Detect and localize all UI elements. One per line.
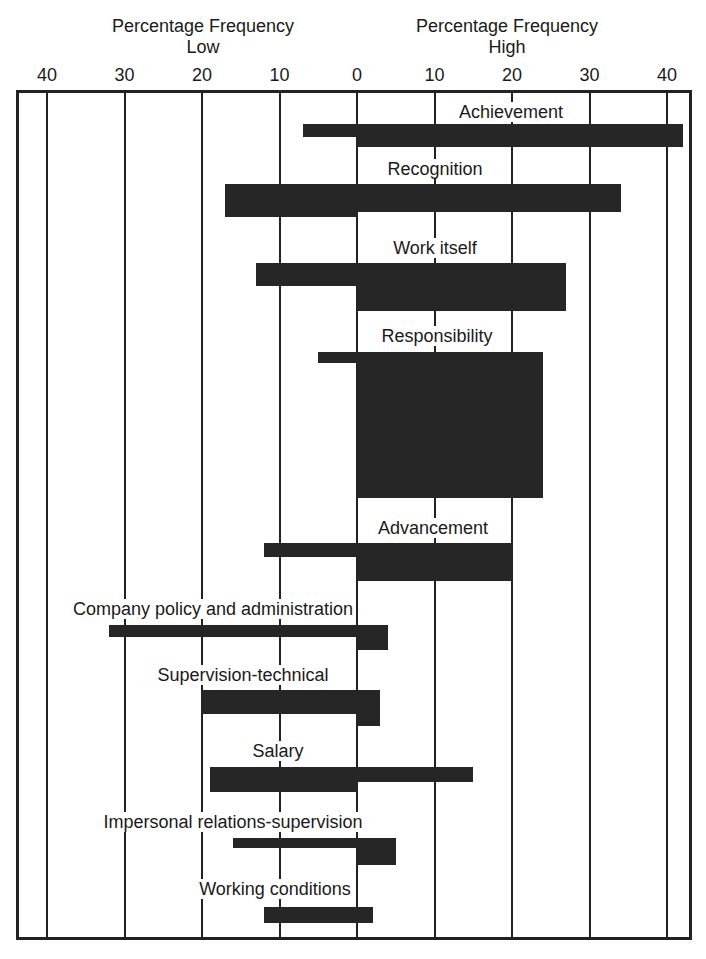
bar-high — [357, 543, 512, 581]
x-tick-label: 0 — [352, 65, 362, 86]
category-label: Responsibility — [378, 326, 495, 346]
category-label: Impersonal relations-supervision — [100, 812, 365, 832]
category-label: Recognition — [384, 159, 485, 179]
x-tick-label: 10 — [269, 65, 289, 86]
x-tick-label: 30 — [114, 65, 134, 86]
bar-low — [202, 690, 357, 714]
bar-low — [210, 767, 357, 792]
x-tick-label: 40 — [657, 65, 677, 86]
bar-low — [256, 263, 357, 286]
category-label: Working conditions — [196, 879, 354, 899]
bar-high — [357, 767, 473, 782]
bar-low — [318, 352, 357, 363]
axis-title-low: Percentage Frequency Low — [112, 16, 294, 58]
axis-title-high-line2: High — [416, 37, 598, 58]
bar-high — [357, 690, 380, 726]
category-label: Supervision-technical — [154, 665, 331, 685]
x-tick-label: 30 — [579, 65, 599, 86]
bar-high — [357, 352, 543, 498]
category-label: Achievement — [456, 102, 566, 122]
bar-high — [357, 124, 683, 147]
gridline — [589, 92, 591, 940]
x-tick-label: 20 — [502, 65, 522, 86]
bar-low — [264, 907, 357, 923]
gridline — [434, 92, 436, 940]
bar-high — [357, 625, 388, 650]
category-label: Salary — [249, 741, 306, 761]
bar-low — [264, 543, 357, 557]
bar-high — [357, 907, 373, 923]
bar-high — [357, 263, 566, 311]
bar-high — [357, 838, 396, 865]
category-label: Company policy and administration — [70, 599, 356, 619]
bar-high — [357, 184, 621, 212]
axis-title-low-line1: Percentage Frequency — [112, 16, 294, 37]
gridline — [46, 92, 48, 940]
category-label: Advancement — [375, 518, 491, 538]
bar-low — [109, 625, 357, 637]
bar-low — [225, 184, 357, 217]
category-label: Work itself — [390, 238, 480, 258]
gridline — [511, 92, 513, 940]
x-tick-label: 10 — [424, 65, 444, 86]
bar-low — [233, 838, 357, 848]
x-tick-label: 40 — [37, 65, 57, 86]
gridline — [666, 92, 668, 940]
x-tick-label: 20 — [192, 65, 212, 86]
bar-low — [303, 124, 357, 137]
axis-title-high: Percentage Frequency High — [416, 16, 598, 58]
axis-title-high-line1: Percentage Frequency — [416, 16, 598, 37]
axis-title-low-line2: Low — [112, 37, 294, 58]
